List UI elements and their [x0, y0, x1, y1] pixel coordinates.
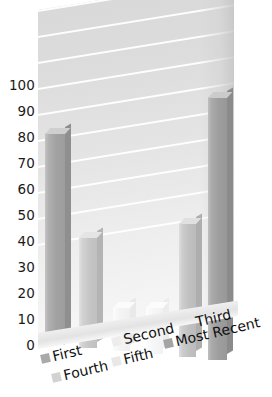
y-tick-80: 80 [18, 131, 35, 145]
y-tick-50: 50 [18, 209, 35, 223]
y-tick-40: 40 [18, 235, 35, 249]
legend-swatch-fourth [51, 372, 62, 383]
legend-swatch-fifth [111, 356, 122, 367]
legend-swatch-most-recent [163, 338, 174, 349]
y-tick-70: 70 [18, 157, 35, 171]
y-tick-20: 20 [18, 287, 35, 301]
bar-chart: 100 90 80 70 60 50 40 30 20 10 0 First F… [0, 0, 272, 397]
y-tick-0: 0 [26, 339, 35, 353]
y-tick-100: 100 [9, 79, 35, 93]
legend-swatch-second [111, 336, 122, 347]
y-tick-10: 10 [18, 313, 35, 327]
y-tick-60: 60 [18, 183, 35, 197]
legend-swatch-first [40, 353, 51, 364]
y-tick-90: 90 [18, 105, 35, 119]
y-tick-30: 30 [18, 261, 35, 275]
y-axis: 100 90 80 70 60 50 40 30 20 10 0 [0, 0, 35, 397]
